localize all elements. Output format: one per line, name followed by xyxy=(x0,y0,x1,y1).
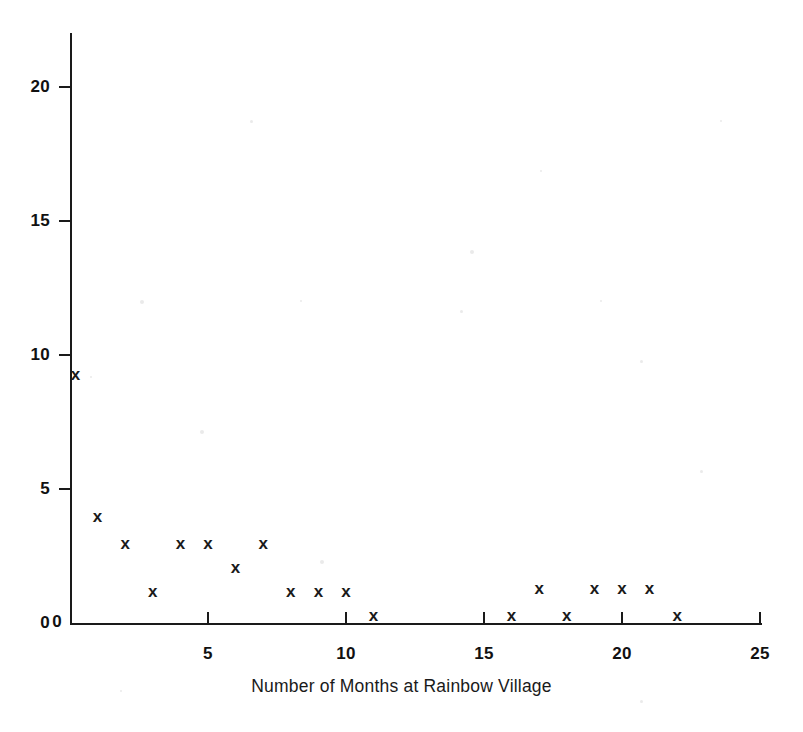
data-point-marker: x xyxy=(172,535,188,551)
x-axis-line xyxy=(70,623,762,625)
data-point-marker: x xyxy=(669,607,685,623)
data-point-marker: x xyxy=(559,607,575,623)
y-axis-line xyxy=(70,33,72,625)
scan-speck xyxy=(90,376,92,378)
y-tick-label: 10 xyxy=(10,345,50,365)
scatter-plot-page: 05101520 0510152025 xxxxxxxxxxxxxxxxxxx … xyxy=(0,0,803,732)
x-tick-label: 25 xyxy=(738,644,782,664)
scan-speck xyxy=(640,700,643,703)
plot-area: 05101520 0510152025 xxxxxxxxxxxxxxxxxxx xyxy=(0,0,803,732)
scan-speck xyxy=(320,560,324,564)
data-point-marker: x xyxy=(642,580,658,596)
y-tick-label: 15 xyxy=(10,211,50,231)
data-point-marker: x xyxy=(531,580,547,596)
data-point-marker: x xyxy=(117,535,133,551)
x-tick-label: 20 xyxy=(600,644,644,664)
y-tick-mark xyxy=(59,86,71,88)
data-point-marker: x xyxy=(366,607,382,623)
data-point-marker: x xyxy=(338,583,354,599)
data-point-marker: x xyxy=(586,580,602,596)
x-tick-label: 0 xyxy=(18,612,62,632)
y-tick-mark xyxy=(59,488,71,490)
scan-speck xyxy=(140,300,144,304)
x-tick-mark xyxy=(483,612,485,624)
x-tick-mark xyxy=(759,612,761,624)
x-tick-label: 15 xyxy=(462,644,506,664)
data-point-marker: x xyxy=(504,607,520,623)
y-tick-label: 5 xyxy=(10,479,50,499)
x-tick-label: 10 xyxy=(324,644,368,664)
y-tick-label: 20 xyxy=(10,77,50,97)
scan-speck xyxy=(640,360,643,363)
data-point-marker: x xyxy=(68,366,84,382)
scan-speck xyxy=(720,120,722,122)
scan-speck xyxy=(250,120,253,123)
scan-speck xyxy=(700,470,703,473)
y-tick-mark xyxy=(59,354,71,356)
data-point-marker: x xyxy=(614,580,630,596)
data-point-marker: x xyxy=(310,583,326,599)
data-point-marker: x xyxy=(228,559,244,575)
data-point-marker: x xyxy=(283,583,299,599)
scan-speck xyxy=(300,300,302,302)
data-point-marker: x xyxy=(90,508,106,524)
data-point-marker: x xyxy=(200,535,216,551)
scan-speck xyxy=(470,250,474,254)
scan-speck xyxy=(200,430,204,434)
x-tick-mark xyxy=(621,612,623,624)
x-axis-title: Number of Months at Rainbow Village xyxy=(0,676,803,697)
data-point-marker: x xyxy=(145,583,161,599)
y-tick-mark xyxy=(59,220,71,222)
scan-speck xyxy=(600,300,602,302)
scan-speck xyxy=(540,170,542,172)
x-tick-label: 5 xyxy=(186,644,230,664)
x-tick-mark xyxy=(207,612,209,624)
scan-speck xyxy=(460,310,463,313)
data-point-marker: x xyxy=(255,535,271,551)
x-tick-mark xyxy=(345,612,347,624)
